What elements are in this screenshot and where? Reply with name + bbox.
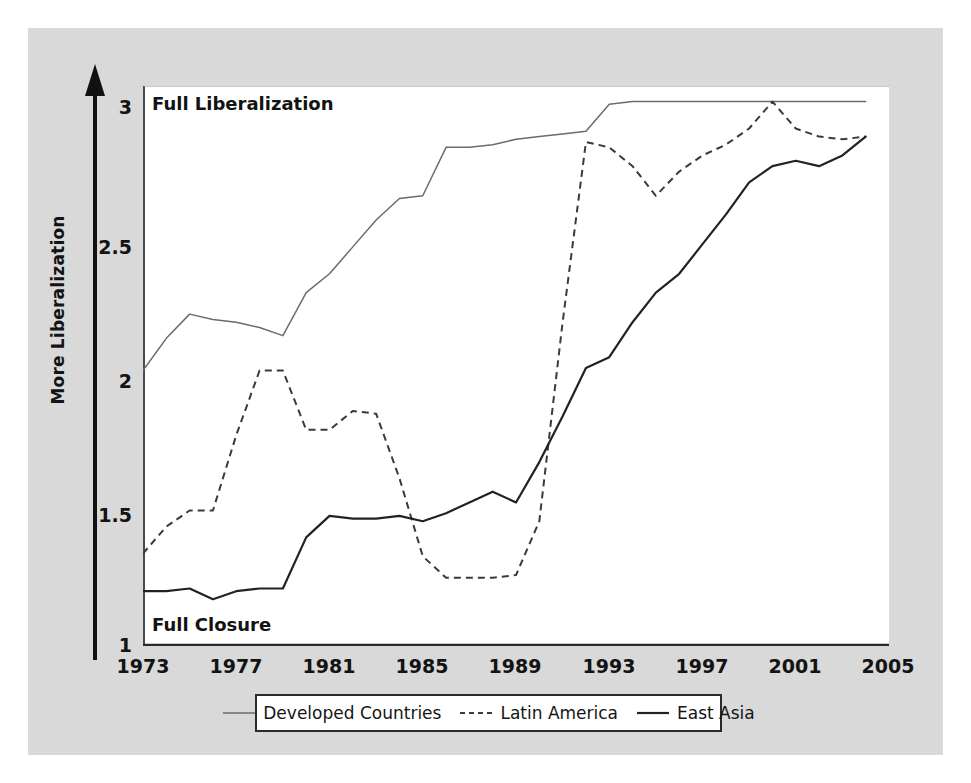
- x-tick-1989: 1989: [475, 655, 555, 677]
- legend-item-latin-america: Latin America: [459, 703, 618, 723]
- figure-page: More Liberalization 1 1.5 2 2.5 3: [0, 0, 971, 783]
- legend-label-latin-america: Latin America: [500, 703, 618, 723]
- x-tick-1977: 1977: [196, 655, 276, 677]
- legend-swatch-solid-thick: [636, 707, 670, 719]
- legend-item-east-asia: East Asia: [636, 703, 755, 723]
- x-tick-1993: 1993: [569, 655, 649, 677]
- x-axis-tick-labels: 1973 1977 1981 1985 1989 1993 1997 2001 …: [0, 0, 971, 783]
- legend-swatch-solid-thin: [222, 707, 256, 719]
- chart-legend: Developed Countries Latin America East A…: [255, 694, 722, 732]
- legend-label-developed-countries: Developed Countries: [263, 703, 441, 723]
- x-tick-1973: 1973: [103, 655, 183, 677]
- x-tick-1985: 1985: [382, 655, 462, 677]
- x-tick-2005: 2005: [848, 655, 928, 677]
- legend-label-east-asia: East Asia: [677, 703, 755, 723]
- x-tick-1981: 1981: [289, 655, 369, 677]
- legend-swatch-dashed: [459, 707, 493, 719]
- legend-item-developed-countries: Developed Countries: [222, 703, 441, 723]
- x-tick-1997: 1997: [662, 655, 742, 677]
- x-tick-2001: 2001: [755, 655, 835, 677]
